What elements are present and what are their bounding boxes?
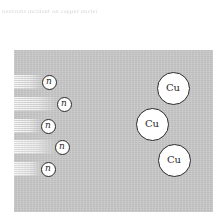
copper-atom: Cu	[158, 144, 191, 177]
neutron-label: n	[61, 99, 67, 108]
neutron-particle: n	[42, 75, 57, 90]
neutron-label: n	[45, 164, 51, 173]
copper-atom: Cu	[157, 72, 190, 105]
neutron-motion-trail	[14, 162, 42, 176]
neutron-motion-trail	[14, 97, 58, 111]
copper-atom: Cu	[136, 108, 169, 141]
neutron-motion-trail	[14, 119, 42, 133]
neutron-label: n	[46, 77, 52, 86]
neutron-label: n	[45, 121, 51, 130]
neutron-particle: n	[41, 162, 56, 177]
neutron-particle: n	[41, 119, 56, 134]
neutron-particle: n	[57, 97, 72, 112]
copper-label: Cu	[167, 155, 181, 165]
neutron-label: n	[59, 142, 65, 151]
neutron-motion-trail	[14, 140, 56, 154]
copper-label: Cu	[166, 83, 180, 93]
figure-caption: neutrons incident on copper nuclei	[2, 8, 137, 14]
neutron-particle: n	[55, 140, 70, 155]
copper-label: Cu	[145, 119, 159, 129]
diagram-panel: n n n n n Cu Cu Cu	[14, 50, 213, 212]
neutron-motion-trail	[14, 75, 43, 89]
